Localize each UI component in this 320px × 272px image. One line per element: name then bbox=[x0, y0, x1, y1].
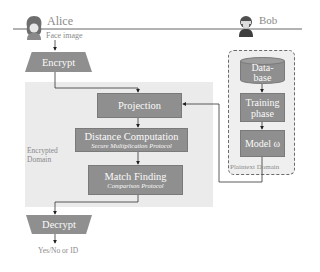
encrypt-label: Encrypt bbox=[42, 57, 75, 68]
alice-name: Alice bbox=[47, 14, 73, 29]
match-finding-box: Match Finding Comparison Protocol bbox=[88, 165, 183, 195]
match-finding-title: Match Finding bbox=[104, 171, 166, 182]
training-label-line2: phase bbox=[251, 108, 274, 119]
match-finding-subtitle: Comparison Protocol bbox=[107, 182, 163, 190]
model-label: Model ω bbox=[245, 138, 280, 149]
database-label-line2: base bbox=[240, 73, 285, 83]
distance-computation-title: Distance Computation bbox=[84, 131, 178, 142]
training-phase-box: Training phase bbox=[240, 93, 285, 122]
output-label: Yes/No or ID bbox=[38, 246, 78, 255]
decrypt-step: Decrypt bbox=[26, 215, 92, 234]
encrypted-domain-label-line1: Encrypted bbox=[27, 146, 58, 155]
training-label-line1: Training bbox=[245, 97, 279, 108]
decrypt-label: Decrypt bbox=[42, 219, 76, 230]
database-label: Data- base bbox=[240, 63, 285, 83]
bob-avatar-icon bbox=[237, 14, 255, 38]
encrypted-domain-label: Encrypted Domain bbox=[27, 146, 58, 164]
alice-avatar-icon bbox=[24, 15, 44, 41]
encrypted-domain-label-line2: Domain bbox=[27, 155, 58, 164]
distance-computation-subtitle: Secure Multiplication Protocol bbox=[91, 142, 171, 150]
projection-box: Projection bbox=[97, 93, 182, 118]
face-image-label: Face image bbox=[46, 31, 83, 40]
projection-title: Projection bbox=[118, 100, 161, 111]
distance-computation-box: Distance Computation Secure Multiplicati… bbox=[75, 128, 188, 152]
database-cylinder: Data- base bbox=[240, 57, 285, 84]
bob-name: Bob bbox=[259, 14, 277, 26]
encrypt-step: Encrypt bbox=[25, 52, 92, 72]
model-box: Model ω bbox=[240, 130, 285, 157]
plaintext-domain-label: Plaintext Domain bbox=[230, 163, 279, 171]
